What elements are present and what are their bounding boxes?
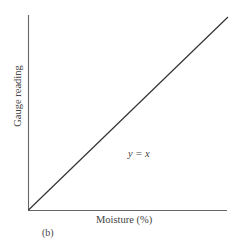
panel-label: (b) (42, 227, 54, 238)
series-line-y-equals-x (29, 17, 229, 210)
chart-canvas (0, 0, 243, 243)
y-axis-label: Gauge reading (12, 65, 23, 127)
x-axis-label: Moisture (%) (96, 214, 152, 225)
equation-annotation: y = x (128, 148, 150, 159)
